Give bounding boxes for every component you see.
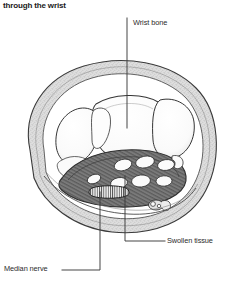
label-wrist-bone: Wrist bone [133, 18, 167, 27]
median-nerve-structure [89, 186, 129, 199]
label-swollen-tissue: Swollen tissue [167, 236, 213, 245]
label-median-nerve: Median nerve [4, 264, 48, 273]
